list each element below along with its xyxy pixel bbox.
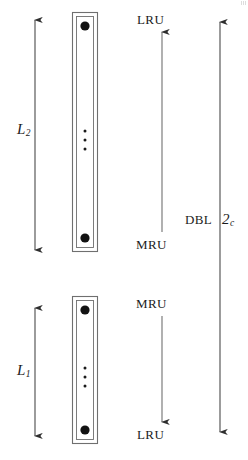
label-2c-base: 2 <box>222 211 230 227</box>
lower-list-head-dot <box>80 305 89 314</box>
scan-artifact-corner-mark <box>241 1 247 5</box>
lru-mru-list-diagram: LRU MRU MRU LRU DBL 2c L2 L1 <box>0 0 248 460</box>
upper-list-tail-dot <box>80 233 89 242</box>
label-dbl: DBL <box>185 213 212 226</box>
label-lru-bottom: LRU <box>137 428 164 441</box>
diagram-canvas <box>0 0 248 460</box>
label-l1-base: L <box>17 362 25 378</box>
label-mru-middle: MRU <box>136 238 167 251</box>
label-l2: L2 <box>17 122 31 139</box>
label-2c-subscript: c <box>230 218 234 228</box>
lower-list-box <box>73 297 98 444</box>
lower-list-tail-dot <box>80 425 89 434</box>
upper-list-box <box>73 13 98 252</box>
upper-list-head-dot <box>80 21 89 30</box>
label-lru-top: LRU <box>137 13 164 26</box>
label-l2-subscript: 2 <box>26 128 31 138</box>
label-l1-subscript: 1 <box>26 369 31 379</box>
label-mru-lower: MRU <box>136 297 167 310</box>
label-l1: L1 <box>17 363 31 380</box>
label-l2-base: L <box>17 121 25 137</box>
label-2c: 2c <box>222 212 234 229</box>
